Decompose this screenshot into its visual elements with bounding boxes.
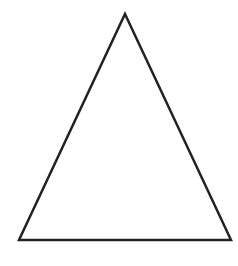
triangle-diagram [0, 0, 238, 266]
triangle-shape [19, 14, 231, 240]
diagram-canvas [0, 0, 238, 266]
